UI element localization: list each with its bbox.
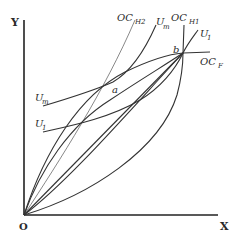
svg-text:OC: OC [200, 56, 216, 67]
oc-h2-label: OC H2 [117, 12, 146, 26]
oc-f-label: OC F [200, 56, 224, 70]
oc-h1-label: OC H1 [171, 12, 200, 26]
svg-text:m: m [163, 23, 170, 31]
svg-text:m: m [42, 98, 49, 106]
svg-text:H1: H1 [188, 18, 200, 26]
svg-text:H2: H2 [134, 18, 146, 26]
oc-h1-curve [24, 25, 184, 215]
diagonal-line [24, 53, 183, 215]
u-m-left-label: U m [35, 92, 49, 106]
u-1-left-label: U 1 [35, 118, 46, 132]
u-m-top-label: U m [156, 16, 170, 31]
edgeworth-box-diagram: Y X O a b OC H2 U m OC H1 U 1 OC F U m [0, 0, 237, 241]
origin-label: O [19, 221, 28, 232]
point-b-label: b [173, 44, 179, 55]
y-axis-label: Y [10, 16, 19, 29]
x-axis-label: X [220, 220, 229, 233]
svg-text:F: F [217, 62, 224, 70]
u-1-top-label: U 1 [200, 28, 211, 42]
svg-text:OC: OC [117, 12, 133, 23]
svg-text:1: 1 [207, 34, 211, 42]
point-a-label: a [112, 84, 118, 95]
svg-text:OC: OC [171, 12, 187, 23]
svg-text:1: 1 [42, 124, 46, 132]
